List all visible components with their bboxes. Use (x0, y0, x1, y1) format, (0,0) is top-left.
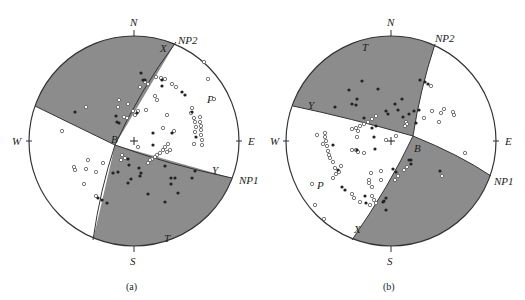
west-label-a: W (12, 135, 22, 147)
t-axis-label-a: T (164, 232, 171, 244)
north-label-a: N (129, 16, 138, 28)
np2-label-a: NP2 (177, 34, 198, 46)
np1-label-a: NP1 (238, 174, 259, 186)
north-label-b: N (386, 16, 395, 28)
caption-a: (a) (126, 281, 137, 293)
south-label-a: S (130, 255, 136, 267)
t-axis-label-b: T (362, 41, 369, 53)
south-label-b: S (387, 255, 393, 267)
caption-b: (b) (383, 281, 395, 293)
np2-label-b: NP2 (434, 32, 455, 44)
np1-label-b: NP1 (493, 175, 514, 187)
east-label-b: E (504, 135, 512, 147)
p-axis-label-b: P (316, 179, 324, 191)
x-axis-label-a: X (159, 42, 168, 54)
b-axis-label-a: B (111, 133, 118, 145)
b-axis-label-b: B (414, 142, 421, 154)
east-label-a: E (247, 135, 255, 147)
west-label-b: W (270, 135, 280, 147)
x-axis-label-b: X (353, 223, 362, 235)
focal-mechanism-figure: N S W E NP2 NP1 X P B Y T (a) (0, 0, 525, 300)
beachball-panel-b: N S W E NP2 NP1 T Y B P X (b) (270, 16, 514, 293)
beachball-panel-a: N S W E NP2 NP1 X P B Y T (a) (12, 16, 259, 293)
